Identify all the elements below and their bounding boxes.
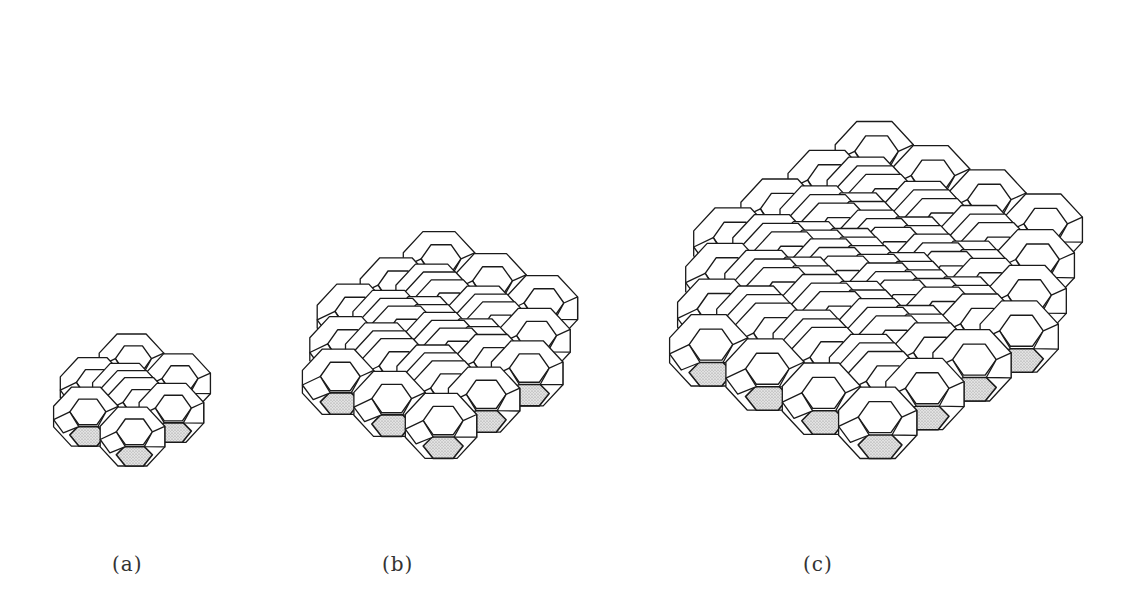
panel-label-a: (a) bbox=[112, 552, 143, 576]
cluster-b bbox=[302, 232, 577, 459]
cluster-a bbox=[54, 334, 211, 466]
panel-label-b: (b) bbox=[382, 552, 413, 576]
panel-label-c: (c) bbox=[803, 552, 833, 576]
cluster-c bbox=[670, 122, 1083, 459]
truncated-octahedron-cell bbox=[100, 407, 165, 466]
truncated-octahedra-figure bbox=[0, 0, 1141, 615]
truncated-octahedron-cell bbox=[405, 393, 476, 458]
truncated-octahedron-cell bbox=[839, 387, 917, 458]
